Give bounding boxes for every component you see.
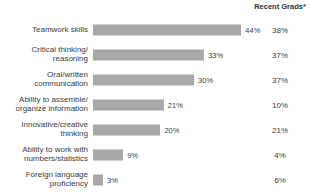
bar-value-label: 21%: [168, 100, 183, 109]
bar-value-label: 33%: [208, 50, 223, 59]
category-label: Foreign language proficiency: [0, 170, 88, 189]
chart-row: Ability to assemble/ organize informatio…: [0, 92, 310, 117]
horizontal-bar-chart: Recent Grads* Teamwork skills 44% 38% Cr…: [0, 0, 310, 192]
bar: [93, 149, 123, 160]
bar-group: 33%: [93, 49, 223, 60]
category-label: Ability to assemble/ organize informatio…: [0, 95, 88, 114]
chart-rows: Teamwork skills 44% 38% Critical thinkin…: [0, 17, 310, 192]
recent-grads-value: 37%: [254, 75, 306, 84]
bar-value-label: 30%: [198, 75, 213, 84]
recent-grads-value: 4%: [254, 150, 306, 159]
bar: [93, 74, 194, 85]
chart-row: Ability to work with numbers/statistics …: [0, 142, 310, 167]
bar-group: 44%: [93, 24, 260, 35]
category-label: Ability to work with numbers/statistics: [0, 145, 88, 164]
recent-grads-value: 6%: [254, 175, 306, 184]
category-label: Critical thinking/ reasoning: [0, 45, 88, 64]
recent-grads-value: 21%: [254, 125, 306, 134]
bar: [93, 49, 204, 60]
bar-value-label: 3%: [107, 175, 118, 184]
bar-group: 30%: [93, 74, 213, 85]
bar-group: 20%: [93, 124, 179, 135]
bar-group: 3%: [93, 174, 118, 185]
category-label: Oral/written communication: [0, 70, 88, 89]
chart-row: Foreign language proficiency 3% 6%: [0, 167, 310, 192]
bar: [93, 99, 164, 110]
recent-grads-value: 38%: [254, 25, 306, 34]
category-label: Innovative/creative thinking: [0, 120, 88, 139]
recent-grads-value: 37%: [254, 50, 306, 59]
category-label: Teamwork skills: [0, 25, 88, 35]
bar: [93, 124, 160, 135]
chart-row: Critical thinking/ reasoning 33% 37%: [0, 42, 310, 67]
bar-value-label: 20%: [164, 125, 179, 134]
bar: [93, 24, 241, 35]
recent-grads-column-header: Recent Grads*: [254, 2, 306, 12]
chart-row: Teamwork skills 44% 38%: [0, 17, 310, 42]
bar-group: 21%: [93, 99, 183, 110]
bar-value-label: 9%: [127, 150, 138, 159]
bar: [93, 174, 103, 185]
bar-group: 9%: [93, 149, 138, 160]
recent-grads-value: 10%: [254, 100, 306, 109]
chart-row: Oral/written communication 30% 37%: [0, 67, 310, 92]
chart-row: Innovative/creative thinking 20% 21%: [0, 117, 310, 142]
